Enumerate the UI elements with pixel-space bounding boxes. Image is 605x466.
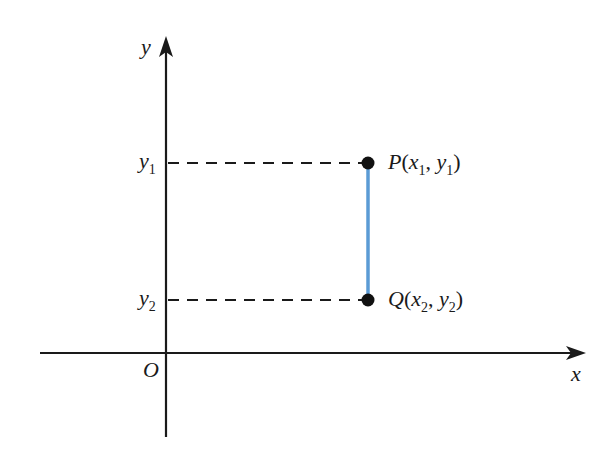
origin-label: O: [143, 357, 159, 382]
point-p-label: P(x1, y1): [387, 149, 461, 178]
point-q: [362, 294, 375, 307]
x-axis: [40, 346, 586, 360]
coordinate-diagram: y x O y1 y2 P(x1, y1) Q(x2, y2): [0, 0, 605, 466]
y-axis: [159, 36, 173, 437]
y-axis-label: y: [139, 34, 151, 59]
y2-tick-label: y2: [137, 285, 156, 314]
x-axis-label: x: [570, 361, 581, 386]
point-p: [362, 157, 375, 170]
y1-tick-label: y1: [137, 148, 156, 177]
point-q-label: Q(x2, y2): [388, 286, 463, 315]
